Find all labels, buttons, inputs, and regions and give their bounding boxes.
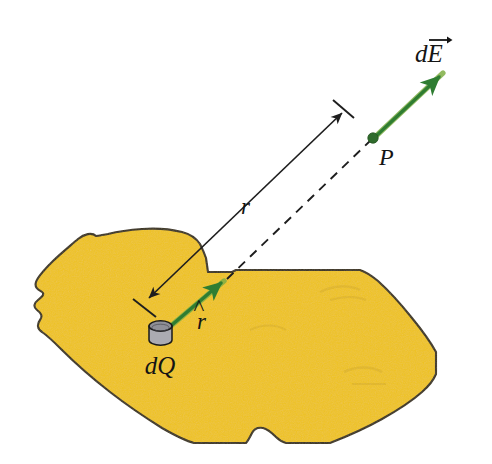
unit-vector-hat-accent: ^ bbox=[194, 295, 205, 320]
field-vector-shaft bbox=[375, 77, 439, 137]
field-vector-label: dE bbox=[415, 36, 452, 67]
field-vector-arrow bbox=[375, 73, 443, 137]
distance-tick-far bbox=[333, 100, 354, 118]
charged-surface-shape bbox=[34, 229, 436, 443]
charge-element-cylinder bbox=[149, 321, 172, 345]
point-p-label: P bbox=[378, 144, 394, 170]
charge-element-label: dQ bbox=[145, 352, 176, 379]
distance-label: r bbox=[241, 194, 251, 219]
figure-root: dE P r r ^ dQ bbox=[0, 0, 492, 464]
physics-diagram: dE P r r ^ dQ bbox=[0, 0, 492, 464]
charged-surface bbox=[34, 229, 436, 443]
field-vector-label-text: dE bbox=[415, 40, 443, 67]
point-p-marker bbox=[368, 133, 378, 143]
